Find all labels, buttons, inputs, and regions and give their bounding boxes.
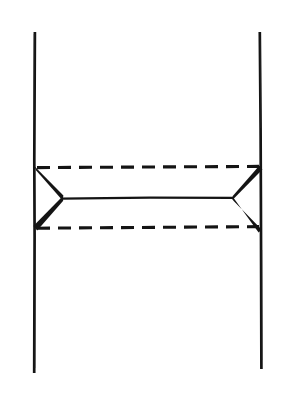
left-fermion-line — [34, 32, 36, 373]
central-solid-line — [62, 198, 233, 199]
diagram-canvas — [0, 0, 284, 398]
figure-root — [0, 0, 284, 398]
diagram-background — [0, 0, 284, 398]
